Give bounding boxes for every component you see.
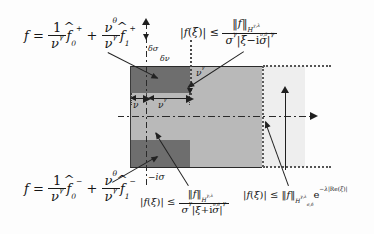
plus-sign: + — [201, 204, 209, 215]
plus-sign: + — [86, 181, 97, 196]
fraction-denominator: νγ — [102, 189, 120, 203]
nu-gamma-measure-right-arrowhead-icon — [186, 95, 194, 103]
label-delta-nu: δν — [160, 54, 170, 63]
dark-block-lower — [130, 140, 190, 167]
abs-bar-close: | — [202, 26, 206, 39]
minus-sign: − — [247, 34, 256, 47]
fraction-denominator: νγ — [48, 189, 66, 203]
less-than-or-equal-sign: ≤ — [270, 189, 278, 200]
real-axis — [118, 116, 316, 117]
strip-top-dotted-continuation — [263, 65, 331, 67]
formula-top-right-inequality: |f(ξ)| ≤ ‖f‖Hγ,λσ,δ σγ|ξ−iσ|γ — [180, 19, 277, 46]
norm-space-subscript: Hγ,λσ,δ — [247, 26, 267, 34]
sigma-exponent: γ — [233, 30, 237, 38]
sigma-symbol: σ — [225, 34, 233, 47]
label-nu-gamma-inner: νγ — [158, 100, 167, 110]
abs-bar-close: | — [345, 186, 347, 192]
space-superscript: γ,λ — [300, 194, 306, 199]
exponent-group: −λ|Re(ξ)| — [319, 186, 347, 192]
fraction-denominator: σγ|ξ+iσ|γ — [179, 204, 229, 215]
label-minus-i-sigma: −iσ — [148, 172, 165, 182]
strip-bottom-edge — [130, 167, 262, 168]
space-superscript: γ,λ — [253, 23, 260, 28]
strip-top-edge — [130, 66, 262, 67]
fraction-denominator: σγ|ξ−iσ|γ — [222, 34, 277, 46]
fraction-denominator: νγ — [102, 36, 120, 50]
label-delta-sigma: δσ — [148, 44, 158, 53]
decay-strip-pointer-arrowhead-icon — [281, 86, 289, 93]
nu-gamma-width-measure-line — [150, 98, 188, 99]
formula-bottom-left-decomposition: f = 1 νγ f0− + νθ νγ f1− — [24, 175, 136, 204]
strip-bottom-dotted-continuation — [263, 166, 331, 168]
abs-bar-close: | — [160, 196, 163, 207]
equals-sign: = — [33, 181, 44, 196]
real-axis-arrowhead-icon — [310, 112, 318, 120]
label-nu-text: ν — [133, 100, 138, 110]
space-superscript: γ,λ — [207, 193, 213, 198]
less-than-or-equal-sign: ≤ — [167, 196, 175, 207]
label-nu-width: ν — [133, 100, 138, 110]
norm-space-subscript: Hγ,λσ,δ — [295, 198, 313, 204]
fraction-norm-over-sigma-term: ‖f‖Hγ,λσ,δ σγ|ξ−iσ|γ — [222, 18, 277, 45]
denominator-exponent: γ — [270, 30, 274, 38]
space-subscript: σ,δ — [213, 202, 220, 207]
superscript-plus: + — [130, 24, 136, 33]
real-part-operator: Re — [330, 186, 338, 192]
formula-bottom-right-inequality: |f(ξ)| ≤ ‖f‖Hγ,λσ,δe−λ|Re(ξ)| — [243, 190, 347, 202]
space-subscript: σ,δ — [307, 202, 314, 207]
f-symbol: f — [24, 28, 29, 43]
superscript-minus: − — [130, 177, 136, 186]
superscript-plus: + — [76, 24, 82, 33]
f-symbol: f — [24, 181, 29, 196]
space-subscript: σ,δ — [260, 32, 267, 37]
fraction-numerator: ‖f‖Hγ,λσ,δ — [179, 189, 229, 203]
subscript-zero: 0 — [71, 39, 76, 48]
equals-sign: = — [33, 28, 44, 43]
fraction-norm-over-sigma-term: ‖f‖Hγ,λσ,δ σγ|ξ+iσ|γ — [179, 189, 229, 214]
less-than-or-equal-sign: ≤ — [210, 26, 219, 39]
decay-strip-pointer-line — [285, 92, 286, 170]
superscript-minus: − — [76, 177, 82, 186]
subscript-one: 1 — [125, 192, 130, 201]
subscript-zero: 0 — [71, 192, 76, 201]
abs-bar-close: | — [263, 189, 266, 200]
fraction-denominator: νγ — [48, 36, 66, 50]
denominator-exponent: γ — [223, 200, 226, 206]
dark-block-upper — [130, 66, 190, 93]
norm-space-subscript: Hγ,λσ,δ — [202, 197, 220, 203]
figure-canvas: δσ δν ν νγ νγ −iσ f = 1 νγ f0+ + νθ νγ f… — [0, 0, 374, 234]
imaginary-axis-arrowhead-icon — [142, 18, 150, 25]
sigma-exponent: γ — [188, 200, 191, 206]
formula-bottom-middle-inequality: |f(ξ)| ≤ ‖f‖Hγ,λσ,δ σγ|ξ+iσ|γ — [140, 190, 229, 215]
nu-gamma-measure-left-arrowhead-icon — [148, 95, 154, 101]
space-H: H — [202, 197, 207, 203]
subscript-one: 1 — [125, 39, 130, 48]
formula-top-left-decomposition: f = 1 νγ f0+ + νθ νγ f1+ — [24, 22, 136, 51]
plus-sign: + — [86, 28, 97, 43]
delta-sigma-arrowhead-icon — [143, 34, 149, 40]
